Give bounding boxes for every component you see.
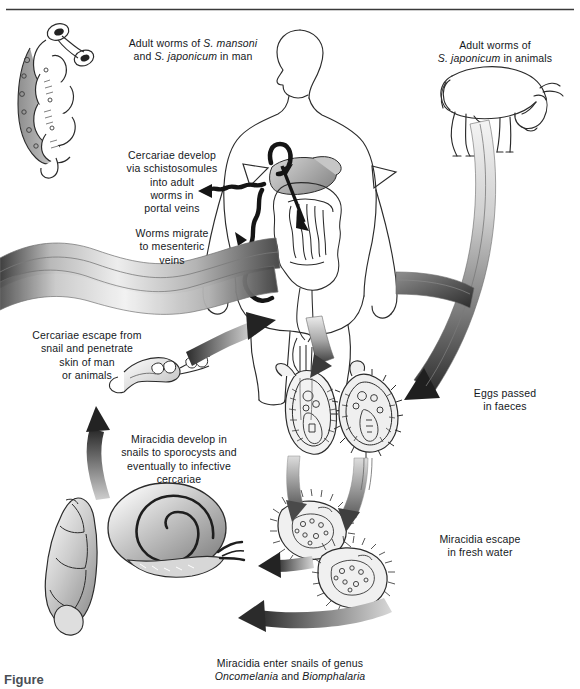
life-cycle-illustration [0, 0, 580, 689]
arrow-human-to-eggs-right [396, 272, 474, 308]
worm-migration-track-main [208, 184, 264, 190]
arrow-human-to-eggs [306, 316, 334, 378]
water-wave-band [0, 238, 280, 314]
snail-operculate-illustration [45, 498, 97, 635]
cercaria-penetration-arrow [186, 312, 276, 366]
figure-page: Adult worms of S. mansoniand S. japonicu… [0, 0, 580, 689]
arrow-snail-to-cercariae [86, 406, 110, 500]
adult-worm-pair-illustration [18, 21, 96, 178]
arrow-cow-to-eggs [404, 120, 496, 400]
figure-caption: Figure [4, 672, 576, 689]
cow-illustration [441, 67, 563, 156]
egg-round-illustration [331, 361, 403, 458]
intestine-organ [273, 183, 341, 377]
arrow-bottom-cycle-to-snail [238, 598, 392, 632]
egg-lateral-spine-illustration [276, 364, 337, 455]
figure-caption-label: Figure [4, 672, 44, 687]
worm-migration-arrowhead-left [198, 184, 212, 198]
snail-planorbid-illustration [108, 483, 244, 577]
